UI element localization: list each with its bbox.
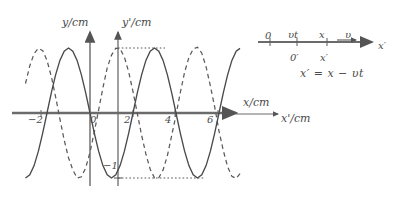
- inset-vt-label: υt: [288, 29, 298, 40]
- main-plot-group: [12, 32, 278, 186]
- x-tick-label-6: 6: [207, 114, 213, 125]
- x-axis-label: x/cm: [243, 96, 270, 109]
- inset-origin-label: 0: [265, 30, 271, 41]
- figure-canvas: [0, 0, 398, 215]
- inset-origin-prime-label: 0′: [290, 52, 299, 63]
- inset-velocity-label: υ: [345, 29, 351, 40]
- xprime-axis-label: x'/cm: [281, 112, 311, 125]
- inset-x-label: x: [319, 29, 325, 40]
- inset-xprime-axis-label: x′: [378, 40, 386, 51]
- physics-wave-figure: y/cm y'/cm x/cm x'/cm −2 0 2 4 6 −1 0 υt…: [0, 0, 398, 215]
- x-tick-label-4: 4: [165, 114, 171, 125]
- x-tick-label-0: 0: [90, 114, 96, 125]
- yprime-axis-label: y'/cm: [122, 16, 152, 29]
- inset-number-line-group: [258, 38, 372, 46]
- y-tick-label-minus-1: −1: [103, 160, 118, 171]
- y-axis-label: y/cm: [62, 16, 89, 29]
- x-tick-label-minus-2: −2: [28, 114, 43, 125]
- x-tick-label-2: 2: [124, 114, 130, 125]
- galilean-transform-equation: x′ = x − υt: [300, 67, 364, 80]
- inset-xprime-point-label: x′: [320, 52, 328, 63]
